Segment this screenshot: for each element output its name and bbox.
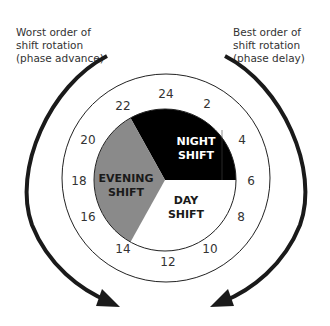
hour-20: 20	[80, 133, 95, 147]
day-label-1: DAY	[174, 194, 200, 207]
right-arrowhead-icon	[210, 289, 234, 307]
hour-24: 24	[158, 87, 173, 101]
hour-4: 4	[238, 133, 246, 147]
hour-14: 14	[115, 242, 130, 256]
hour-16: 16	[80, 210, 95, 224]
hour-22: 22	[115, 99, 130, 113]
night-label-1: NIGHT	[176, 135, 216, 148]
hour-18: 18	[71, 174, 86, 188]
shift-rotation-diagram: 24 2 4 6 8 10 12 14 16 18 20 22 NIGHT SH…	[0, 0, 330, 326]
hour-6: 6	[247, 174, 255, 188]
hour-8: 8	[237, 210, 245, 224]
evening-label-2: SHIFT	[108, 186, 145, 199]
night-label-2: SHIFT	[178, 149, 215, 162]
evening-label-1: EVENING	[98, 172, 153, 185]
day-label-2: SHIFT	[168, 208, 205, 221]
hour-12: 12	[160, 255, 175, 269]
left-arrowhead-icon	[96, 289, 120, 307]
hour-10: 10	[202, 242, 217, 256]
hour-2: 2	[203, 97, 211, 111]
